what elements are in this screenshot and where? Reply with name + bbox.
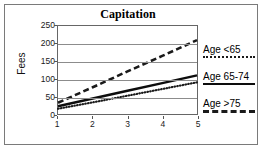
series-line	[58, 82, 197, 108]
x-axis-tick-mark	[198, 116, 199, 119]
gridline	[58, 98, 197, 99]
x-axis-tick-mark	[57, 116, 58, 119]
y-axis-tick-labels: 050100150200250	[27, 0, 55, 151]
legend-entry: Age 65-74	[203, 71, 261, 89]
x-axis-tick-mark	[163, 116, 164, 119]
x-axis-tick-mark	[128, 116, 129, 119]
y-axis-tick: 250	[29, 21, 55, 30]
series-line	[58, 40, 197, 103]
legend-label: Age 65-74	[203, 71, 261, 82]
y-axis-tick-mark	[54, 61, 57, 62]
y-axis-tick-mark	[54, 97, 57, 98]
y-axis-tick-mark	[54, 43, 57, 44]
gridline	[58, 44, 197, 45]
x-axis-tick: 1	[55, 119, 60, 129]
y-axis-tick-mark	[54, 79, 57, 80]
gridline	[58, 80, 197, 81]
chart-legend: Age <65Age 65-74Age >75	[203, 44, 261, 126]
legend-label: Age >75	[203, 98, 261, 109]
x-axis-tick: 2	[90, 119, 95, 129]
series-layer	[58, 26, 197, 114]
x-axis-tick: 3	[125, 119, 130, 129]
y-axis-tick: 200	[29, 39, 55, 48]
y-axis-tick: 100	[29, 75, 55, 84]
x-axis-tick: 4	[160, 119, 165, 129]
plot-area	[57, 25, 198, 115]
x-axis-tick: 5	[196, 119, 201, 129]
dashed-line-key	[203, 110, 255, 117]
gridline	[58, 62, 197, 63]
dotted-line-key	[203, 56, 255, 62]
legend-entry: Age <65	[203, 44, 261, 62]
chart-screenshot: Capitation 050100150200250 Fees 12345 Ag…	[0, 0, 264, 151]
x-axis-tick-labels: 12345	[57, 116, 198, 132]
chart-title: Capitation	[57, 7, 199, 22]
legend-label: Age <65	[203, 44, 261, 55]
y-axis-tick-mark	[54, 25, 57, 26]
y-axis-tick: 150	[29, 57, 55, 66]
y-axis-tick-mark	[54, 115, 57, 116]
y-axis-tick: 50	[29, 93, 55, 102]
legend-entry: Age >75	[203, 98, 261, 117]
y-axis-tick: 0	[29, 111, 55, 120]
x-axis-tick-mark	[92, 116, 93, 119]
y-axis-label: Fees	[16, 41, 27, 87]
solid-line-key	[203, 83, 255, 89]
